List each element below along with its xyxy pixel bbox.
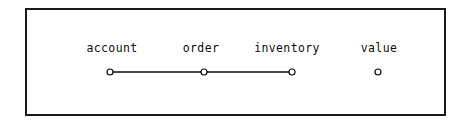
- node-label: order: [183, 43, 219, 55]
- node-label: value: [361, 43, 397, 55]
- node-marker: [289, 69, 295, 75]
- figure-root: accountorderinventoryvalue: [0, 0, 471, 128]
- node-label: inventory: [254, 43, 319, 55]
- node-marker: [375, 69, 381, 75]
- node-marker: [107, 69, 113, 75]
- node-marker: [201, 69, 207, 75]
- node-label: account: [87, 43, 138, 55]
- plot-canvas: [0, 0, 471, 128]
